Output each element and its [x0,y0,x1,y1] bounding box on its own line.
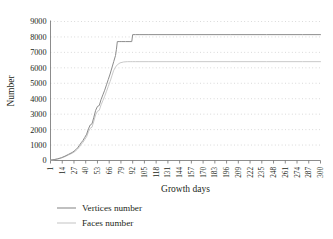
x-tick-label: 157 [188,167,196,178]
legend-label: Faces number [82,218,133,228]
x-tick-label: 222 [247,167,255,178]
series-line-vertices-number [51,35,321,160]
data-series [51,35,321,161]
y-tick-label: 3000 [30,110,46,119]
x-tick-label: 144 [176,167,184,178]
x-tick-label: 235 [258,167,266,178]
x-tick-label: 196 [223,167,231,178]
x-tick-label: 105 [141,167,149,178]
axes [51,21,321,161]
x-tick-label: 170 [200,167,208,178]
legend-label: Vertices number [82,203,142,213]
x-tick-label: 40 [82,167,90,175]
x-tick-label: 287 [305,167,313,178]
y-tick-label: 1000 [30,141,46,150]
x-tick-label: 274 [294,167,302,178]
x-tick-label: 209 [235,167,243,178]
chart-legend: Vertices numberFaces number [57,203,142,228]
series-line-faces-number [51,62,321,161]
y-tick-label: 4000 [30,95,46,104]
x-tick-label: 53 [94,167,102,175]
y-tick-label: 8000 [30,33,46,42]
y-axis-title: Number [6,75,16,107]
x-axis-title: Growth days [161,184,210,194]
y-tick-label: 5000 [30,79,46,88]
x-tick-label: 1 [47,167,55,171]
gridlines [51,22,321,146]
x-tick-label: 261 [282,167,290,178]
x-tick-label: 118 [153,167,161,178]
line-chart: 0100020003000400050006000700080009000 11… [0,0,333,239]
x-tick-label: 14 [59,167,67,175]
chart-figure: 0100020003000400050006000700080009000 11… [0,0,333,239]
x-tick-label: 66 [106,167,114,175]
y-tick-label: 0 [42,156,46,165]
y-axis-tick-labels: 0100020003000400050006000700080009000 [30,17,46,165]
x-tick-label: 248 [270,167,278,178]
x-tick-label: 300 [317,167,325,178]
x-tick-label: 27 [71,167,79,175]
x-tick-label: 183 [211,167,219,178]
y-tick-label: 6000 [30,64,46,73]
y-tick-label: 7000 [30,48,46,57]
y-tick-label: 9000 [30,17,46,26]
x-tick-label: 79 [118,167,126,175]
x-tick-label: 92 [129,167,137,175]
x-tick-label: 131 [164,167,172,178]
x-axis-tick-labels: 1142740536679921051181311441571701831962… [47,161,325,178]
y-tick-label: 2000 [30,126,46,135]
